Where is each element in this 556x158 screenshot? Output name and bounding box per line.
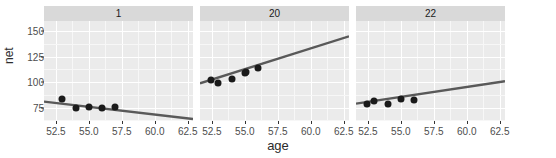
x-axis-tick-label: 57.5 <box>424 126 443 137</box>
x-axis-tick-label: 52.5 <box>358 126 377 137</box>
x-axis-tick-label: 62.5 <box>178 126 197 137</box>
y-axis-tick-label: 150 <box>4 26 44 37</box>
x-axis-ticks: 52.555.057.560.062.5 <box>44 0 193 158</box>
y-axis-tick-label: 125 <box>4 51 44 62</box>
x-axis-tick-label: 55.0 <box>235 126 254 137</box>
x-axis-tick-mark <box>344 121 345 124</box>
x-axis-tick-mark <box>188 121 189 124</box>
x-axis-tick-mark <box>155 121 156 124</box>
x-axis-tick-mark <box>278 121 279 124</box>
x-axis-tick-mark <box>245 121 246 124</box>
x-axis-tick-mark <box>56 121 57 124</box>
x-axis-tick-mark <box>89 121 90 124</box>
x-axis-tick-mark <box>500 121 501 124</box>
x-axis-tick-label: 62.5 <box>490 126 509 137</box>
x-axis-tick-label: 57.5 <box>112 126 131 137</box>
x-axis-tick-label: 60.0 <box>301 126 320 137</box>
x-axis-tick-mark <box>368 121 369 124</box>
y-axis-ticks: 75100125150 <box>0 0 44 158</box>
x-axis-tick-mark <box>122 121 123 124</box>
y-axis-tick-label: 75 <box>4 102 44 113</box>
x-axis-tick-mark <box>311 121 312 124</box>
x-axis-tick-mark <box>401 121 402 124</box>
x-axis-tick-label: 60.0 <box>145 126 164 137</box>
x-axis-tick-label: 55.0 <box>391 126 410 137</box>
x-axis-ticks: 52.555.057.560.062.5 <box>200 0 349 158</box>
x-axis-tick-label: 62.5 <box>334 126 353 137</box>
chart-root: net 75100125150 12022 age 52.555.057.560… <box>0 0 556 158</box>
x-axis-tick-mark <box>212 121 213 124</box>
x-axis-tick-label: 57.5 <box>268 126 287 137</box>
x-axis-tick-label: 60.0 <box>457 126 476 137</box>
y-axis-tick-label: 100 <box>4 77 44 88</box>
x-axis-tick-label: 52.5 <box>202 126 221 137</box>
x-axis-ticks: 52.555.057.560.062.5 <box>356 0 505 158</box>
x-axis-tick-mark <box>467 121 468 124</box>
x-axis-tick-mark <box>434 121 435 124</box>
x-axis-tick-label: 55.0 <box>79 126 98 137</box>
x-axis-tick-label: 52.5 <box>46 126 65 137</box>
